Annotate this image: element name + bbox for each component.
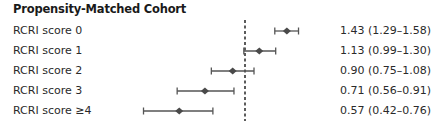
estimate-marker	[201, 88, 209, 95]
estimate-marker	[283, 28, 291, 35]
ci-row	[244, 48, 276, 55]
estimate-marker	[255, 48, 263, 55]
ci-row	[144, 108, 213, 115]
ci-layer	[144, 28, 299, 115]
ci-row	[211, 68, 254, 75]
estimate-marker	[175, 108, 183, 115]
ci-row	[275, 28, 299, 35]
ci-row	[177, 88, 234, 95]
estimate-marker	[229, 68, 237, 75]
